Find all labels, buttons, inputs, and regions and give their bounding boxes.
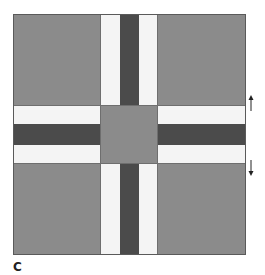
- sashing-bottom-light-left: [100, 164, 120, 255]
- sashing-bottom-dark: [120, 164, 139, 255]
- arrow-up-icon: [247, 95, 255, 111]
- corner-top-right: [158, 14, 246, 105]
- sashing-left-dark: [13, 124, 100, 145]
- sashing-left-light-top: [13, 105, 100, 124]
- corner-bottom-right: [158, 164, 246, 255]
- sashing-right-light-top: [158, 105, 246, 124]
- sashing-right-dark: [158, 124, 246, 145]
- sashing-top-dark: [120, 14, 139, 105]
- sashing-right-light-bottom: [158, 145, 246, 164]
- figure-label: C: [13, 261, 22, 273]
- corner-bottom-left: [13, 164, 100, 255]
- sashing-bottom-light-right: [139, 164, 158, 255]
- arrow-down-icon: [247, 160, 255, 176]
- corner-top-left: [13, 14, 100, 105]
- sashing-top-light-left: [100, 14, 120, 105]
- center-square: [100, 105, 158, 164]
- sashing-left-light-bottom: [13, 145, 100, 164]
- sashing-top-light-right: [139, 14, 158, 105]
